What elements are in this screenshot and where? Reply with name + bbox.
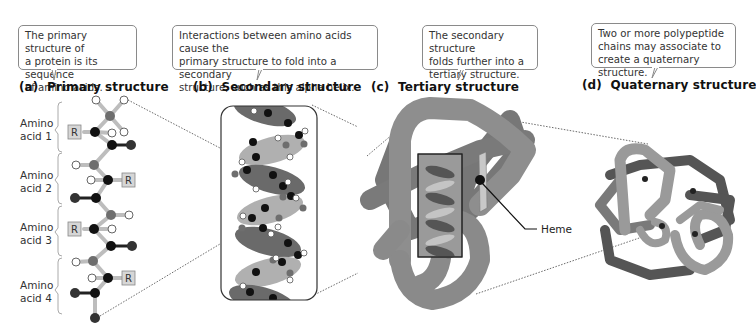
amino-acid-1-label: Amino acid 1 [20,117,53,143]
r-group-label: R [125,175,132,186]
label-line: acid 2 [20,182,53,195]
label-line: Amino [20,279,53,292]
alpha-helix [221,92,317,321]
amino-acid-2-label: Amino acid 2 [20,169,53,195]
amino-acid-brackets [55,102,62,314]
label-line: acid 1 [20,130,53,143]
label-line: Amino [20,117,53,130]
amino-acid-3-label: Amino acid 3 [20,221,53,247]
label-line: Amino [20,169,53,182]
quaternary-structure [600,149,730,275]
tertiary-helix [418,154,462,261]
heme-label: Heme [541,223,572,235]
amino-acid-4-label: Amino acid 4 [20,279,53,305]
label-line: acid 3 [20,234,53,247]
r-group-label: R [71,224,78,235]
label-line: acid 4 [20,292,53,305]
r-group-label: R [71,127,78,138]
label-line: Amino [20,221,53,234]
r-group-label: R [125,273,132,284]
callout-pointers [52,67,658,80]
